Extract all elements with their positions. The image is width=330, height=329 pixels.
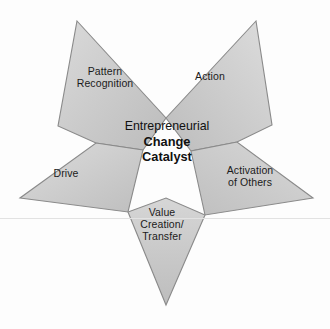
- center-title-line-3: Catalyst: [84, 149, 250, 164]
- star-point-value-creation[interactable]: [128, 198, 205, 305]
- center-title-line-1: Entrepreneurial: [84, 119, 250, 134]
- center-title-block: Entrepreneurial Change Catalyst: [84, 119, 250, 164]
- star-diagram: Entrepreneurial Change Catalyst Pattern …: [0, 0, 330, 329]
- center-title-line-2: Change: [84, 134, 250, 149]
- star-diagram-svg: [0, 0, 330, 329]
